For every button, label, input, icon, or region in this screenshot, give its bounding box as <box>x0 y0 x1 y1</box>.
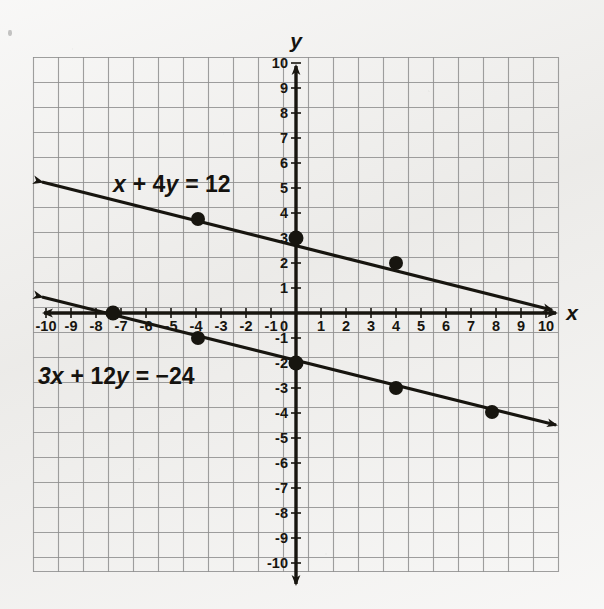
y-tick-label: 7 <box>280 130 288 146</box>
line-2-eq-op2: = −24 <box>136 363 195 389</box>
x-tick-label: 8 <box>492 318 500 334</box>
y-tick-label: 8 <box>280 105 288 121</box>
line-1-eq-op2: = 12 <box>185 171 230 197</box>
coordinate-plane: -10 -9 -8 -7 -6 -5 -4 -3 -2 -1 1 2 3 4 5… <box>0 0 604 609</box>
line-1-eq-op1: + 4 <box>133 171 166 197</box>
x-tick-label: 1 <box>317 318 325 334</box>
x-tick-label: 5 <box>417 318 425 334</box>
y-tick-label: -10 <box>267 555 288 571</box>
svg-text:3x+ 12y= −24: 3x+ 12y= −24 <box>38 363 195 389</box>
x-tick-label: -9 <box>65 318 78 334</box>
y-tick-label: -7 <box>275 480 288 496</box>
x-tick-label: 2 <box>342 318 350 334</box>
data-point <box>191 331 205 345</box>
y-tick-label: 9 <box>280 80 288 96</box>
line-2-eq-op1: + 12 <box>71 363 116 389</box>
y-tick-label: -3 <box>275 380 288 396</box>
y-tick-label: -1 <box>275 330 288 346</box>
x-tick-label: 9 <box>517 318 525 334</box>
x-tick-label: -8 <box>90 318 103 334</box>
x-tick-label: -2 <box>240 318 253 334</box>
x-axis-label: x <box>565 301 579 324</box>
x-tick-label: 4 <box>392 318 400 334</box>
x-tick-label: -10 <box>36 318 57 334</box>
x-tick-label: 7 <box>467 318 475 334</box>
data-point <box>289 231 304 246</box>
y-tick-label: 1 <box>280 280 288 296</box>
line-2-eq-var-y: y <box>115 363 130 389</box>
graph-page: -10 -9 -8 -7 -6 -5 -4 -3 -2 -1 1 2 3 4 5… <box>0 0 604 609</box>
y-tick-label: -4 <box>275 405 288 421</box>
y-tick-label: 6 <box>280 155 288 171</box>
line-1-eq-var-x: x <box>111 171 127 197</box>
y-tick-label: 5 <box>280 180 288 196</box>
data-point <box>106 306 121 321</box>
data-point <box>485 405 499 419</box>
x-tick-label: 6 <box>442 318 450 334</box>
line-2-equation-label: 3x+ 12y= −24 <box>38 363 195 389</box>
y-tick-label: 10 <box>272 55 288 71</box>
y-tick-label: -5 <box>275 430 288 446</box>
data-point <box>191 212 205 226</box>
y-tick-label: -8 <box>275 505 288 521</box>
y-tick-label: -6 <box>275 455 288 471</box>
y-axis-label: y <box>289 29 303 52</box>
y-tick-label: -9 <box>275 530 288 546</box>
x-tick-label: -3 <box>215 318 228 334</box>
data-point <box>389 381 403 395</box>
x-tick-label: 10 <box>538 318 554 334</box>
y-tick-label: 4 <box>280 205 288 221</box>
data-point <box>289 356 304 371</box>
line-series-2 <box>42 297 556 425</box>
line-1-equation-label: x+ 4y= 12 <box>111 171 231 197</box>
x-tick-label: 3 <box>367 318 375 334</box>
line-2-eq-term-3x: 3x <box>38 363 65 389</box>
data-point <box>389 256 403 270</box>
svg-text:x+ 4y= 12: x+ 4y= 12 <box>111 171 231 197</box>
y-tick-label: 2 <box>280 255 288 271</box>
x-tick-label: -7 <box>115 318 128 334</box>
line-1-eq-var-y: y <box>164 171 179 197</box>
